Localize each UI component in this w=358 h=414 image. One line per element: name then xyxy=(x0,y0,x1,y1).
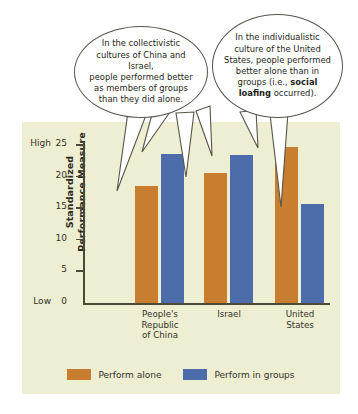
x-label-israel: Israel xyxy=(193,309,265,320)
chart-legend: Perform alone Perform in groups xyxy=(22,369,340,380)
y-tick-0: Low 0 xyxy=(76,302,83,304)
callout-left-text: In the collectivistic cultures of China … xyxy=(75,38,207,105)
x-label-united-states: United States xyxy=(264,309,336,330)
x-axis-line xyxy=(83,303,330,305)
y-tick-10: 10 xyxy=(76,239,83,241)
x-label-china: People's Republic of China xyxy=(124,309,196,341)
y-tick-label-5: 5 xyxy=(61,264,67,274)
legend-label-perform-alone: Perform alone xyxy=(98,370,161,380)
legend-swatch-perform-in-groups xyxy=(183,369,207,380)
legend-item-perform-in-groups: Perform in groups xyxy=(183,369,294,380)
y-tick-label-0: 0 xyxy=(61,296,67,306)
callout-bubble-collectivistic: In the collectivistic cultures of China … xyxy=(74,26,208,118)
y-tick-label-10: 10 xyxy=(56,233,67,243)
legend-label-perform-in-groups: Perform in groups xyxy=(214,370,294,380)
legend-item-perform-alone: Perform alone xyxy=(67,369,161,380)
legend-swatch-perform-alone xyxy=(67,369,91,380)
callout-right-text: In the individualistic culture of the Un… xyxy=(214,32,341,99)
y-tick-5: 5 xyxy=(76,270,83,272)
callout-bubble-individualistic: In the individualistic culture of the Un… xyxy=(212,14,343,118)
y-tick-prefix-low: Low xyxy=(33,296,51,306)
